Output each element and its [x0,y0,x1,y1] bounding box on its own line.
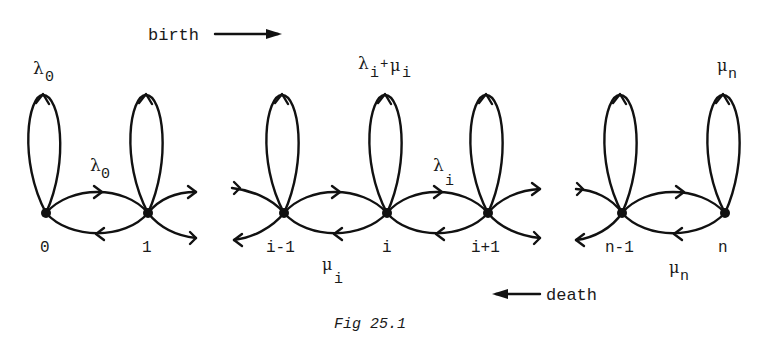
self-loop-i+1 [470,95,502,213]
svg-text:n: n [728,66,737,83]
edge-n-1-to-n [622,192,725,213]
state-label-n: n [718,239,728,257]
edge-1-to-0 [46,213,148,233]
rate-label-self-loop-i: λ i + μ i [358,53,411,82]
birth-arrow-icon [266,29,282,39]
svg-text:+: + [380,56,388,72]
svg-text:0: 0 [101,166,110,183]
death-arrow-icon [492,289,508,299]
edge-i-to-i-1 [284,213,387,233]
birth-death-diagram: birth death 0 1 λ 0 [0,0,762,340]
state-node-0 [41,208,51,218]
rate-label-forward-i: λ i [433,155,454,190]
state-label-n-1: n-1 [605,239,634,257]
svg-text:n: n [680,268,689,285]
svg-text:λ: λ [358,53,369,73]
state-group-i: i-1 i i+1 λ i + μ i λ i μ i [232,53,540,288]
state-group-0-1: 0 1 λ 0 λ 0 [28,58,196,257]
svg-text:i: i [370,65,379,82]
state-node-i-1 [279,208,289,218]
figure-caption: Fig 25.1 [334,316,406,333]
edge-n-to-n-1 [622,213,725,233]
state-group-n: n-1 n μ n μ n [576,56,740,285]
state-node-i [382,208,392,218]
rate-label-backward-i: μ i [322,255,343,288]
svg-text:i: i [445,173,454,190]
svg-text:μ: μ [717,56,727,75]
self-loop-i-1 [266,95,298,213]
state-node-n [720,208,730,218]
death-direction-indicator: death [492,286,597,305]
svg-text:λ: λ [433,155,444,175]
self-loop-n-1 [604,95,636,213]
edge-i+1-to-i [387,213,488,233]
state-node-1 [143,208,153,218]
state-label-0: 0 [40,239,50,257]
rate-label-forward-0: λ 0 [90,155,110,183]
svg-text:λ: λ [90,155,101,175]
svg-text:i: i [402,65,411,82]
svg-text:λ: λ [33,58,44,78]
self-loop-0 [28,95,60,213]
birth-label: birth [148,26,199,45]
birth-direction-indicator: birth [148,26,282,45]
self-loop-i [369,95,401,213]
death-label: death [546,286,597,305]
state-label-1: 1 [142,239,152,257]
self-loop-n [707,95,739,213]
svg-text:0: 0 [45,69,54,86]
state-label-i-1: i-1 [266,239,295,257]
svg-text:μ: μ [669,258,679,277]
rate-label-self-loop-n: μ n [717,56,737,83]
state-label-i: i [382,239,392,257]
state-label-i+1: i+1 [471,239,500,257]
svg-text:i: i [334,271,343,288]
edge-1-in-backward [148,213,196,238]
rate-label-self-loop-0: λ 0 [33,58,54,86]
state-node-i+1 [483,208,493,218]
svg-text:μ: μ [390,56,400,75]
edge-i+1-in-backward [488,213,540,238]
edge-i-1-out-backward [234,213,284,240]
svg-text:μ: μ [322,255,332,274]
rate-label-backward-n: μ n [669,258,689,285]
edge-i-1-in-forward [232,188,284,213]
state-node-n-1 [617,208,627,218]
self-loop-1 [130,95,162,213]
